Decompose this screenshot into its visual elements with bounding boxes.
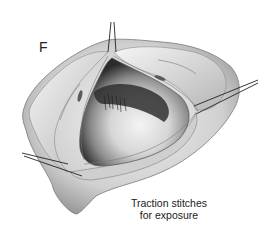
caption-line-2: for exposure xyxy=(128,209,210,221)
caption-line-1: Traction stitches xyxy=(128,197,210,209)
panel-label: F xyxy=(39,39,48,55)
figure-caption: Traction stitches for exposure xyxy=(128,197,210,221)
